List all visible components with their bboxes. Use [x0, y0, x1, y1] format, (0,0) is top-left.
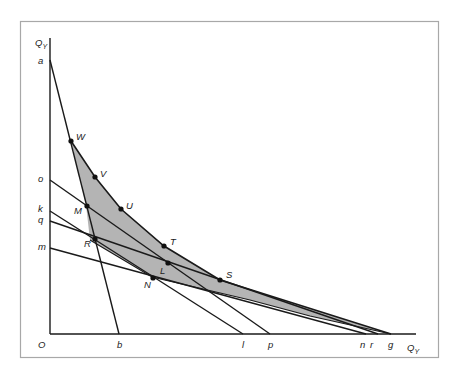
point-U [118, 206, 123, 211]
point-N [150, 275, 155, 280]
diagram-canvas: QY QY O a o k q m b l p n r g W V U M T … [0, 0, 454, 385]
y-axis-label: QY [35, 37, 48, 50]
label-W: W [76, 131, 86, 142]
label-o: o [38, 173, 43, 184]
label-U: U [126, 200, 133, 211]
label-q: q [38, 214, 44, 225]
point-M [84, 203, 89, 208]
label-g: g [388, 339, 394, 350]
line-q-r [50, 221, 378, 334]
label-k: k [38, 203, 44, 214]
shaded-region [71, 141, 391, 334]
label-l: l [242, 339, 245, 350]
line-k-l [50, 211, 243, 334]
label-V: V [100, 168, 108, 179]
label-p: p [267, 339, 273, 350]
point-R [92, 236, 97, 241]
label-b: b [117, 339, 122, 350]
line-m-n [50, 248, 366, 334]
point-S [217, 277, 222, 282]
label-R: R [84, 238, 91, 249]
label-S: S [226, 269, 233, 280]
label-m: m [38, 241, 46, 252]
label-M: M [74, 205, 82, 216]
label-L: L [160, 265, 165, 276]
point-L [165, 260, 170, 265]
label-T: T [170, 236, 177, 247]
point-W [68, 138, 73, 143]
x-axis-label: QY [407, 342, 420, 355]
label-n: n [360, 339, 365, 350]
label-N: N [144, 279, 151, 290]
origin-label: O [38, 339, 46, 350]
label-a: a [38, 55, 43, 66]
point-V [92, 174, 97, 179]
label-r: r [370, 339, 374, 350]
point-T [161, 243, 166, 248]
